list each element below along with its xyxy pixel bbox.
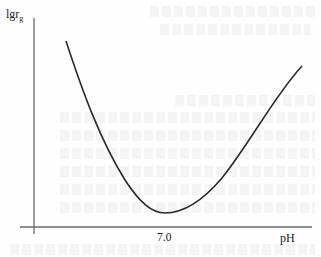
y-axis-label: lgrg <box>6 7 23 23</box>
x-axis-label: pH <box>280 231 295 246</box>
x-tick-label: 7.0 <box>157 231 171 243</box>
data-curve <box>66 41 302 213</box>
chart-figure: lgrg 7.0 pH <box>0 0 321 257</box>
chart-plot <box>0 0 321 257</box>
